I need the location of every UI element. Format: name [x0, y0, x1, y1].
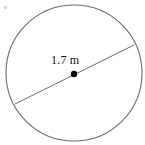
diameter-measure-label: 1.7 m [51, 54, 79, 67]
scan-speck [4, 6, 7, 9]
center-dot [71, 71, 77, 77]
geometry-figure: 1.7 m [0, 0, 145, 145]
figure-svg [0, 0, 145, 145]
